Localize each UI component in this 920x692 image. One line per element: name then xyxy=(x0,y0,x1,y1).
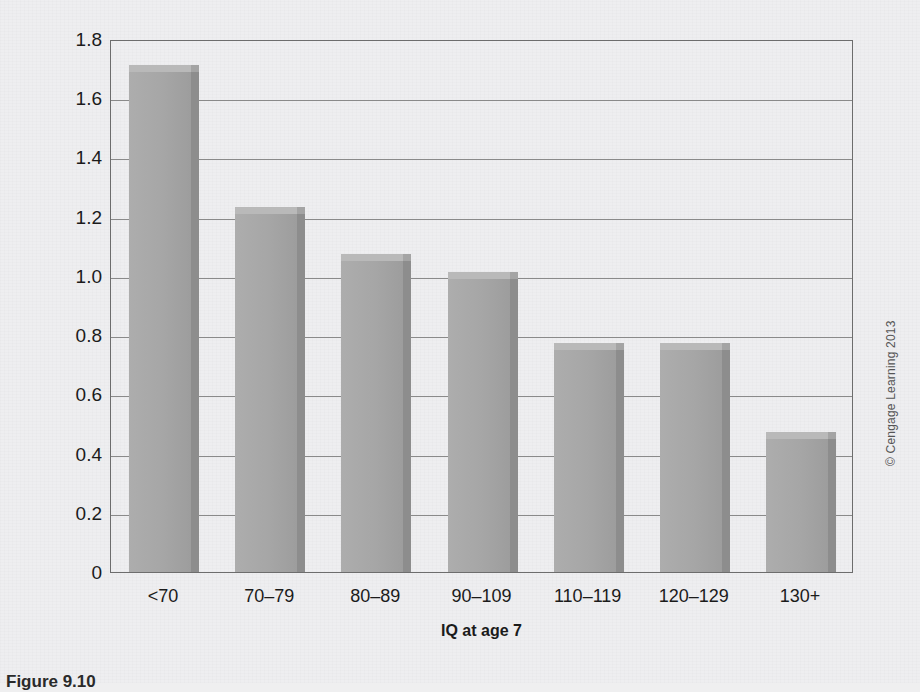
bar-top-corner-face xyxy=(191,65,199,72)
bar-front-face xyxy=(660,350,722,572)
x-axis-title: IQ at age 7 xyxy=(110,622,853,640)
bar-top-corner-face xyxy=(616,343,624,350)
bar-top-face xyxy=(448,272,510,279)
bar-front-face xyxy=(448,279,510,572)
bar-side-face xyxy=(403,261,411,572)
bar-side-face xyxy=(722,350,730,572)
x-axis-tick-label: 120–129 xyxy=(659,586,729,607)
bar-top-face xyxy=(341,254,403,261)
bar-side-face xyxy=(191,72,199,572)
bar-side-face xyxy=(616,350,624,572)
y-axis-tick-label: 1.8 xyxy=(44,29,102,51)
bar xyxy=(660,350,722,572)
bar-top-face xyxy=(660,343,722,350)
bar-front-face xyxy=(341,261,403,572)
bar-top-face xyxy=(235,207,297,214)
bar-top-corner-face xyxy=(403,254,411,261)
bar-top-face xyxy=(129,65,191,72)
bar xyxy=(235,214,297,572)
bar-front-face xyxy=(554,350,616,572)
bar-top-face xyxy=(554,343,616,350)
bar-front-face xyxy=(235,214,297,572)
y-axis-tick-label: 0 xyxy=(44,562,102,584)
y-axis-tick-labels: 00.20.40.60.81.01.21.41.61.8 xyxy=(44,0,102,683)
y-axis-tick-label: 1.2 xyxy=(44,207,102,229)
y-axis-tick-label: 1.6 xyxy=(44,88,102,110)
x-axis-tick-label: 80–89 xyxy=(350,586,400,607)
gridline xyxy=(111,219,852,220)
bar-top-corner-face xyxy=(510,272,518,279)
bar xyxy=(341,261,403,572)
x-axis-tick-label: <70 xyxy=(148,586,179,607)
y-axis-tick-label: 0.2 xyxy=(44,503,102,525)
bar-top-corner-face xyxy=(828,432,836,439)
bar-front-face xyxy=(129,72,191,572)
y-axis-tick-label: 1.4 xyxy=(44,147,102,169)
bar xyxy=(766,439,828,572)
figure-caption: Figure 9.10 xyxy=(6,672,96,692)
bar-top-corner-face xyxy=(722,343,730,350)
bar xyxy=(129,72,191,572)
plot-area xyxy=(110,40,853,573)
y-axis-tick-label: 0.6 xyxy=(44,384,102,406)
bar xyxy=(554,350,616,572)
bar-top-corner-face xyxy=(297,207,305,214)
y-axis-tick-label: 1.0 xyxy=(44,266,102,288)
gridline xyxy=(111,159,852,160)
bar-side-face xyxy=(510,279,518,572)
bar-front-face xyxy=(766,439,828,572)
x-axis-tick-label: 110–119 xyxy=(554,586,621,607)
gridline xyxy=(111,100,852,101)
bar-top-face xyxy=(766,432,828,439)
bar-side-face xyxy=(297,214,305,572)
y-axis-tick-label: 0.4 xyxy=(44,444,102,466)
x-axis-tick-label: 70–79 xyxy=(244,586,294,607)
bar xyxy=(448,279,510,572)
copyright-notice: © Cengage Learning 2013 xyxy=(884,266,902,466)
y-axis-tick-label: 0.8 xyxy=(44,325,102,347)
bar-side-face xyxy=(828,439,836,572)
x-axis-tick-label: 130+ xyxy=(780,586,821,607)
x-axis-tick-label: 90–109 xyxy=(451,586,511,607)
